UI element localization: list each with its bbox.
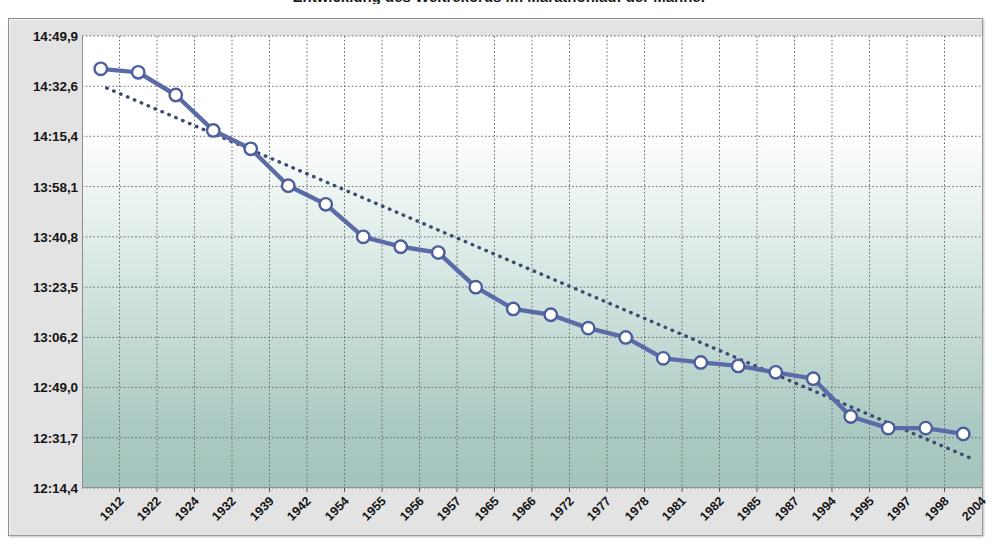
plot-svg (0, 0, 999, 559)
chart-root: Entwicklung des Weltrekords im Marathonl… (0, 0, 999, 559)
data-point-marker[interactable] (245, 143, 257, 155)
data-point-marker[interactable] (432, 246, 444, 258)
data-point-marker[interactable] (470, 281, 482, 293)
data-point-marker[interactable] (882, 422, 894, 434)
data-point-marker[interactable] (395, 241, 407, 253)
data-point-marker[interactable] (132, 66, 144, 78)
data-point-marker[interactable] (807, 373, 819, 385)
data-point-marker[interactable] (657, 352, 669, 364)
data-point-marker[interactable] (320, 198, 332, 210)
data-point-marker[interactable] (207, 124, 219, 136)
data-point-marker[interactable] (845, 410, 857, 422)
data-point-marker[interactable] (770, 366, 782, 378)
data-point-marker[interactable] (545, 309, 557, 321)
data-point-marker[interactable] (357, 231, 369, 243)
data-point-marker[interactable] (920, 422, 932, 434)
data-point-marker[interactable] (282, 179, 294, 191)
data-point-marker[interactable] (507, 303, 519, 315)
data-point-marker[interactable] (95, 63, 107, 75)
data-point-marker[interactable] (582, 322, 594, 334)
x-axis-labels: 1912192219241932193919421954195519561957… (82, 490, 982, 550)
data-point-marker[interactable] (957, 428, 969, 440)
data-point-marker[interactable] (732, 360, 744, 372)
data-point-marker[interactable] (620, 331, 632, 343)
data-point-marker[interactable] (695, 356, 707, 368)
data-markers (95, 63, 970, 440)
data-point-marker[interactable] (170, 89, 182, 101)
